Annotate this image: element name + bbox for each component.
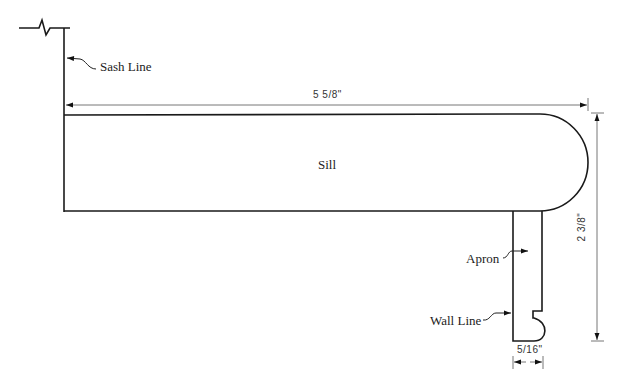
leader-arrows: [67, 58, 528, 320]
sash-line-label: Sash Line: [100, 60, 152, 73]
apron-leader: [503, 251, 528, 258]
wall-line-leader: [483, 313, 511, 320]
diagram-drawing: [0, 0, 625, 386]
apron-thickness-dimension: [513, 356, 543, 369]
sash-line-leader: [67, 58, 96, 69]
height-dimension: [591, 113, 604, 341]
wall-line-label: Wall Line: [430, 314, 481, 327]
apron-thickness-label: 5/16": [517, 345, 543, 355]
apron-outline: [513, 211, 545, 341]
sill-label: Sill: [318, 158, 336, 171]
apron-label: Apron: [466, 252, 499, 265]
width-dimension-label: 5 5/8": [313, 90, 342, 100]
height-dimension-label: 2 3/8": [577, 213, 587, 242]
break-line-symbol: [19, 20, 70, 35]
sill-diagram: Sash Line Sill Apron Wall Line 5 5/8" 2 …: [0, 0, 625, 386]
